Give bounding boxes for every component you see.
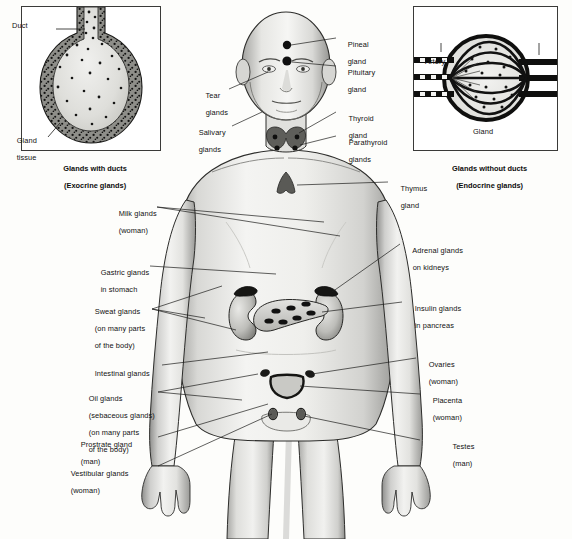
endocrine-caption: Glands without ducts (Endocrine glands) — [413, 156, 558, 200]
duct-lumen — [53, 7, 129, 131]
leader-salivary — [232, 112, 262, 126]
salivary-line-2: glands — [199, 145, 221, 154]
insulin-line-1: Insulin glands — [415, 304, 462, 313]
exocrine-caption-line-2: (Exocrine glands) — [64, 181, 126, 190]
prostate-line-1: Prostrate gland — [81, 440, 133, 449]
gastric-line-2: in stomach — [101, 285, 138, 294]
right-hand — [382, 466, 430, 516]
parathyroid-marker-1 — [273, 135, 278, 140]
label-insulin-glands: Insulin glands in pancreas — [406, 296, 461, 339]
sweat-line-1: Sweat glands — [95, 307, 141, 316]
label-milk-glands: Milk glands (woman) — [110, 201, 157, 244]
oil-line-1: Oil glands — [89, 394, 123, 403]
exocrine-caption-line-1: Glands with ducts — [63, 164, 127, 173]
right-pupil — [301, 67, 305, 71]
ovaries-line-1: Ovaries — [429, 360, 455, 369]
adrenal-line-1: Adrenal glands — [412, 246, 463, 255]
exocrine-caption: Glands with ducts (Exocrine glands) — [21, 156, 161, 200]
figure-canvas: Duct Gland tissue Glands with ducts (Exo… — [0, 0, 572, 539]
islet — [278, 319, 287, 324]
label-thymus-gland: Thymus gland — [392, 176, 427, 219]
ovaries-line-2: (woman) — [429, 377, 458, 386]
pituitary-line-2: gland — [348, 85, 367, 94]
parathyroid-marker-2 — [295, 135, 300, 140]
endocrine-gland-label: Gland — [473, 128, 493, 137]
label-salivary-glands: Salivary glands — [190, 120, 226, 163]
endocrine-artery-label: Artery — [425, 58, 445, 67]
pituitary-line-1: Pituitary — [348, 68, 376, 77]
pineal-gland-marker — [283, 41, 291, 49]
endocrine-caption-line-1: Glands without ducts — [452, 164, 527, 173]
gland-tissue-line-1: Gland — [17, 136, 37, 145]
gastric-line-1: Gastric glands — [101, 268, 150, 277]
insulin-line-2: in pancreas — [415, 321, 454, 330]
exocrine-gland-illustration — [22, 7, 160, 150]
tear-line-2: glands — [206, 108, 228, 117]
right-ear — [322, 59, 336, 85]
salivary-line-1: Salivary — [199, 128, 226, 137]
testes-line-1: Testes — [452, 442, 474, 451]
vestibular-line-2: (woman) — [71, 486, 100, 495]
label-placenta: Placenta (woman) — [424, 388, 462, 431]
islet — [306, 310, 315, 315]
islet — [271, 308, 280, 313]
exocrine-inset-frame — [21, 6, 161, 151]
parathyroid-line-1: Parathyroid — [349, 138, 388, 147]
intestinal-line-1: Intestinal glands — [95, 369, 150, 378]
left-testis-fill — [269, 409, 277, 419]
label-pituitary-gland: Pituitary gland — [339, 60, 375, 103]
label-parathyroid-glands: Parathyroid glands — [340, 130, 388, 173]
placenta-line-1: Placenta — [433, 396, 463, 405]
exocrine-duct-label: Duct — [12, 22, 28, 31]
parathyroid-marker-4 — [292, 145, 297, 150]
oil-line-2: (sebaceous glands) — [89, 411, 155, 420]
parathyroid-line-2: glands — [349, 155, 371, 164]
islet — [292, 315, 301, 320]
thyroid-line-1: Thyroid — [348, 114, 373, 123]
thymus-line-1: Thymus — [400, 184, 427, 193]
adrenal-line-2: on kidneys — [413, 263, 449, 272]
testes-line-2: (man) — [453, 459, 473, 468]
label-testes: Testes (man) — [444, 434, 474, 477]
left-leg — [227, 430, 274, 539]
right-leg — [298, 430, 345, 539]
milk-line-1: Milk glands — [119, 209, 157, 218]
placenta-line-2: (woman) — [433, 413, 462, 422]
pineal-line-1: Pineal — [348, 40, 369, 49]
pituitary-gland-marker — [282, 56, 291, 65]
islet — [286, 305, 295, 310]
human-figure — [142, 12, 431, 539]
islet — [264, 318, 273, 323]
label-sweat-glands: Sweat glands (on many parts of the body) — [86, 299, 145, 359]
label-intestinal-glands: Intestinal glands — [86, 361, 150, 387]
islet — [301, 301, 310, 306]
right-testis-fill — [297, 409, 305, 419]
thymus-line-2: gland — [401, 201, 420, 210]
label-gastric-glands: Gastric glands in stomach — [92, 260, 149, 303]
sweat-line-2: (on many parts — [95, 324, 146, 333]
left-pupil — [267, 67, 271, 71]
tear-line-1: Tear — [205, 91, 220, 100]
vestibular-line-1: Vestibular glands — [71, 469, 129, 478]
sweat-line-3: of the body) — [95, 341, 135, 350]
endocrine-caption-line-2: (Endocrine glands) — [456, 181, 523, 190]
milk-line-2: (woman) — [119, 226, 148, 235]
parathyroid-marker-3 — [274, 145, 279, 150]
label-adrenal-glands: Adrenal glands on kidneys — [404, 238, 463, 281]
crotch-shadow — [283, 432, 292, 539]
left-hand — [142, 466, 190, 516]
endocrine-vein-label: Vein — [524, 58, 539, 67]
uterus-organ — [271, 375, 304, 398]
label-vestibular-glands: Vestibular glands (woman) — [62, 461, 129, 504]
